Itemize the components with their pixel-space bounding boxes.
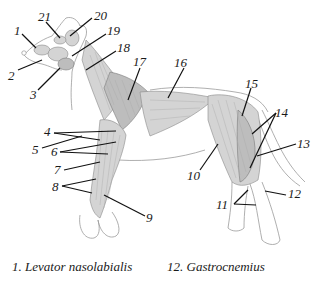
label-3: 3 (30, 88, 37, 101)
legend-name: Gastrocnemius (187, 259, 265, 274)
legend-name: Levator nasolabialis (25, 259, 132, 274)
label-7: 7 (54, 163, 61, 176)
nose (22, 51, 26, 55)
label-20: 20 (94, 9, 107, 22)
label-9: 9 (146, 211, 153, 224)
label-19: 19 (107, 24, 120, 37)
hind-leg (208, 95, 280, 245)
legend-item-1: 1. Levator nasolabialis (12, 259, 132, 275)
label-18: 18 (117, 41, 130, 54)
label-14: 14 (275, 106, 288, 119)
legend-number: 1. (12, 259, 22, 274)
label-5: 5 (32, 143, 39, 156)
label-13: 13 (297, 137, 310, 150)
label-21: 21 (38, 10, 51, 23)
label-17: 17 (133, 55, 146, 68)
label-15: 15 (245, 77, 258, 90)
label-10: 10 (187, 169, 200, 182)
label-16: 16 (174, 56, 187, 69)
label-4: 4 (44, 125, 51, 138)
legend-item-12: 12. Gastrocnemius (167, 259, 265, 275)
label-8: 8 (52, 180, 59, 193)
label-2: 2 (8, 69, 15, 82)
label-11: 11 (216, 198, 228, 211)
label-12: 12 (288, 187, 301, 200)
label-6: 6 (51, 145, 58, 158)
label-1: 1 (14, 24, 21, 37)
legend-number: 12. (167, 259, 183, 274)
